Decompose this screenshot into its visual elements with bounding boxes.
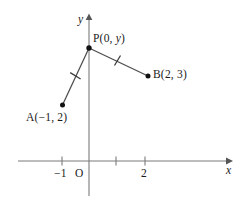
- x-tick-label-2: 2: [141, 168, 147, 180]
- diagram-canvas: y x O −1 2 P(0, y) A(−1, 2) B(2, 3): [0, 0, 242, 200]
- origin-label: O: [75, 168, 84, 180]
- point-b-dot: [146, 74, 151, 79]
- y-axis-label: y: [78, 14, 83, 26]
- x-tick-label-minus-1: −1: [54, 168, 67, 180]
- point-b-label: B(2, 3): [153, 69, 187, 81]
- segment-pb: [89, 48, 148, 76]
- y-axis-arrowhead: [86, 14, 93, 21]
- diagram-svg: [0, 0, 242, 200]
- point-a-dot: [60, 103, 65, 108]
- point-p-dot: [86, 45, 91, 50]
- x-axis-label: x: [226, 165, 231, 177]
- point-a-label: A(−1, 2): [26, 112, 67, 124]
- point-p-label: P(0, y): [93, 33, 125, 45]
